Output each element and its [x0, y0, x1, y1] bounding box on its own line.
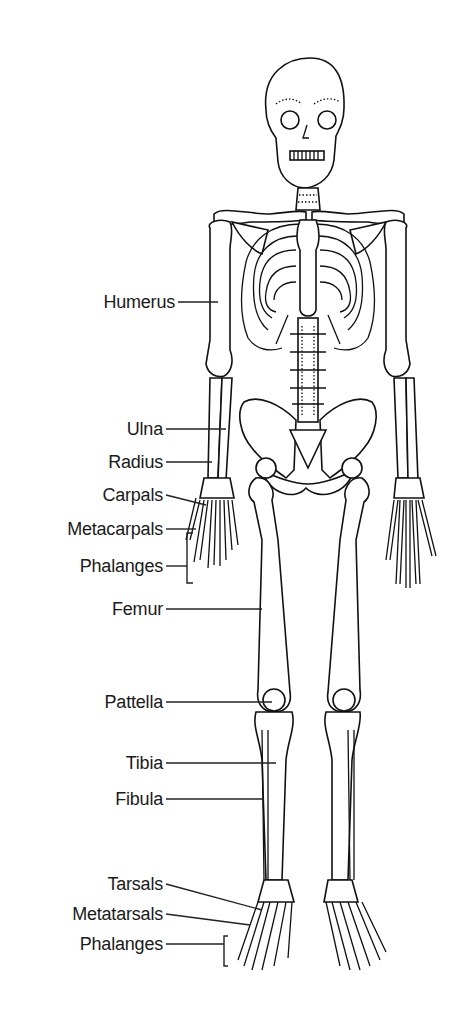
label-tarsals: Tarsals — [107, 874, 163, 894]
label-femur: Femur — [112, 599, 163, 619]
label-metacarpals: Metacarpals — [67, 519, 163, 539]
right-leg — [324, 478, 386, 970]
label-fibula: Fibula — [115, 789, 163, 809]
skeleton-illustration — [0, 0, 472, 1033]
lumbar-spine — [290, 318, 326, 422]
left-leg — [224, 478, 294, 970]
skull — [266, 58, 344, 188]
label-carpals: Carpals — [102, 485, 163, 505]
label-pattella: Pattella — [105, 692, 163, 712]
label-radius: Radius — [108, 452, 163, 472]
label-phalanges-hand: Phalanges — [80, 556, 163, 576]
label-tibia: Tibia — [126, 753, 163, 773]
right-arm — [384, 220, 436, 588]
cervical-spine — [296, 188, 320, 210]
skeleton-diagram: Humerus Ulna Radius Carpals Metacarpals … — [0, 0, 472, 1033]
label-metatarsals: Metatarsals — [72, 904, 163, 924]
label-phalanges-foot: Phalanges — [80, 934, 163, 954]
label-humerus: Humerus — [103, 292, 175, 312]
label-ulna: Ulna — [127, 419, 163, 439]
